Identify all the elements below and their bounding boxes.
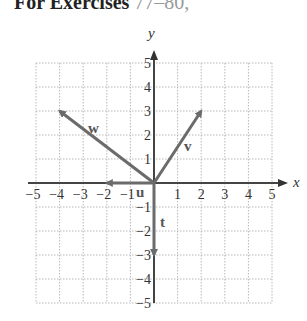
x-tick-label: −2 bbox=[96, 187, 111, 202]
x-tick-label: −1 bbox=[120, 187, 135, 202]
y-tick-label: −4 bbox=[136, 272, 151, 287]
x-tick-label: −5 bbox=[26, 187, 41, 202]
y-tick-label: 5 bbox=[144, 56, 151, 71]
x-tick-label: 2 bbox=[198, 187, 205, 202]
x-tick-label: 5 bbox=[269, 187, 276, 202]
y-tick-label: −3 bbox=[136, 248, 151, 263]
y-tick-label: −2 bbox=[136, 224, 151, 239]
vector-label-t: t bbox=[160, 214, 165, 230]
x-tick-label: −4 bbox=[49, 187, 64, 202]
y-tick-label: 3 bbox=[144, 104, 151, 119]
vector-label-v: v bbox=[184, 138, 192, 154]
x-tick-label: 3 bbox=[221, 187, 228, 202]
y-tick-label: 4 bbox=[144, 80, 151, 95]
x-tick-label: 4 bbox=[245, 187, 252, 202]
vector-label-u: u bbox=[136, 184, 144, 200]
x-tick-label: 1 bbox=[174, 187, 181, 202]
y-axis-label: y bbox=[146, 25, 155, 41]
vector-diagram: x y −5−4−3−2−112345 54321−1−2−3−4−5 w v … bbox=[0, 0, 307, 321]
vector-label-w: w bbox=[88, 120, 99, 136]
y-tick-label: −1 bbox=[136, 200, 151, 215]
x-axis-label: x bbox=[292, 174, 300, 190]
y-tick-label: 2 bbox=[144, 128, 151, 143]
y-tick-label: 1 bbox=[144, 152, 151, 167]
x-tick-label: −3 bbox=[73, 187, 88, 202]
y-tick-label: −5 bbox=[136, 296, 151, 311]
